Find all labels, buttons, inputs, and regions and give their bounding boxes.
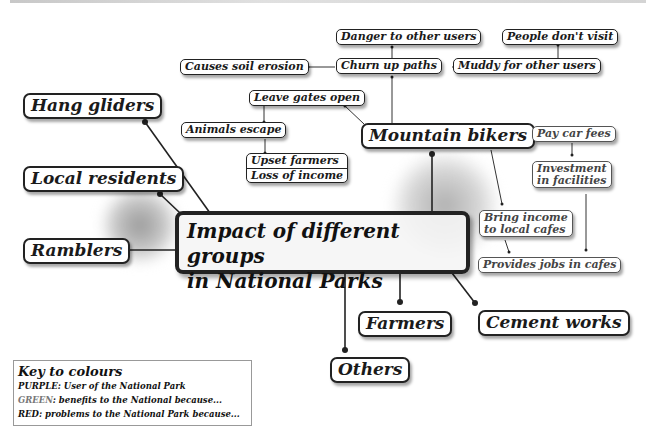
- central-topic[interactable]: Impact of different groups in National P…: [175, 211, 470, 274]
- key-row-green: GREEN: benefits to the National because.…: [18, 393, 247, 407]
- group-mountain-bikers[interactable]: Mountain bikers: [361, 123, 535, 149]
- key-text-purple: : User of the National Park: [58, 381, 186, 391]
- problem-upset-farmers: Upset farmers: [247, 154, 347, 168]
- benefit-investment-line-1: Investment: [537, 163, 607, 175]
- group-ramblers[interactable]: Ramblers: [23, 238, 130, 264]
- colour-key: Key to colours PURPLE: User of the Natio…: [13, 360, 252, 426]
- key-text-red: : problems to the National Park because.…: [39, 409, 240, 419]
- problem-upset-farmers-loss-of-income[interactable]: Upset farmers Loss of income: [246, 153, 348, 183]
- problem-causes-soil-erosion[interactable]: Causes soil erosion: [180, 59, 309, 75]
- problem-danger-to-other-users[interactable]: Danger to other users: [336, 29, 481, 45]
- central-topic-line-2: in National Parks: [187, 269, 458, 294]
- benefit-investment-in-facilities[interactable]: Investment in facilities: [532, 161, 612, 188]
- benefit-provides-jobs-in-cafes[interactable]: Provides jobs in cafes: [478, 257, 621, 273]
- key-label-green: GREEN: [18, 395, 53, 405]
- key-row-red: RED: problems to the National Park becau…: [18, 407, 247, 421]
- problem-leave-gates-open[interactable]: Leave gates open: [249, 90, 365, 106]
- problem-muddy-for-other-users[interactable]: Muddy for other users: [453, 58, 601, 74]
- problem-loss-of-income: Loss of income: [247, 168, 347, 183]
- key-title: Key to colours: [18, 364, 247, 379]
- group-farmers[interactable]: Farmers: [358, 311, 452, 337]
- central-topic-line-1: Impact of different groups: [187, 219, 458, 269]
- benefit-investment-line-2: in facilities: [537, 175, 607, 187]
- group-others[interactable]: Others: [330, 357, 410, 383]
- key-label-red: RED: [18, 409, 39, 419]
- problem-animals-escape[interactable]: Animals escape: [181, 122, 286, 138]
- benefit-bring-income-line-1: Bring income: [484, 212, 568, 224]
- key-text-green: : benefits to the National because...: [53, 395, 222, 405]
- key-row-purple: PURPLE: User of the National Park: [18, 379, 247, 393]
- group-cement-works[interactable]: Cement works: [478, 310, 630, 336]
- benefit-bring-income-line-2: to local cafes: [484, 224, 568, 236]
- group-hang-gliders[interactable]: Hang gliders: [23, 93, 162, 119]
- problem-churn-up-paths[interactable]: Churn up paths: [336, 58, 442, 74]
- problem-people-dont-visit[interactable]: People don't visit: [502, 29, 618, 45]
- group-local-residents[interactable]: Local residents: [23, 166, 184, 192]
- benefit-pay-car-fees[interactable]: Pay car fees: [532, 126, 616, 142]
- benefit-bring-income-to-local-cafes[interactable]: Bring income to local cafes: [479, 210, 573, 237]
- key-label-purple: PURPLE: [18, 381, 58, 391]
